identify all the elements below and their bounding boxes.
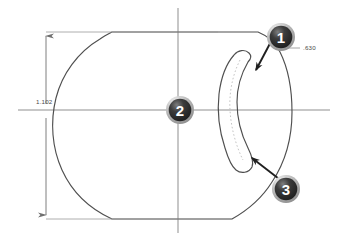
balloon-1[interactable]: 1 <box>267 23 295 51</box>
balloon-2-label: 2 <box>176 102 184 119</box>
balloon-3-label: 3 <box>282 181 290 198</box>
slot-path <box>218 51 253 173</box>
balloon-3[interactable]: 3 <box>272 175 300 203</box>
balloon-leaders <box>252 34 283 182</box>
balloon-1-label: 1 <box>277 29 285 46</box>
overall-height-dimension: 1.102 <box>36 32 232 219</box>
drawing-svg: 1.102 .630 1 2 3 <box>0 0 344 252</box>
part-outline <box>53 32 292 219</box>
balloon-2[interactable]: 2 <box>166 96 194 124</box>
slot-width-value: .630 <box>303 44 316 51</box>
overall-height-value: 1.102 <box>36 98 53 105</box>
engineering-drawing-canvas: 1.102 .630 1 2 3 <box>0 0 344 252</box>
outline-path <box>53 32 292 219</box>
curved-slot <box>218 51 253 173</box>
